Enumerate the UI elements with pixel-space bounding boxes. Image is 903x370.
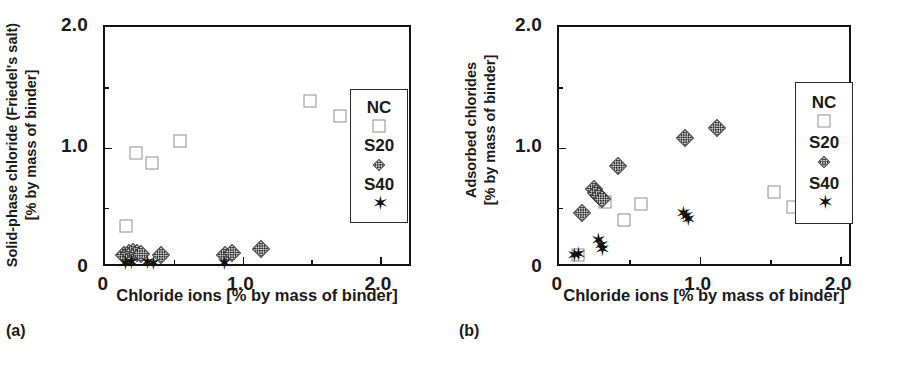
x-tick-major: [380, 257, 382, 264]
legend-label-s20: S20: [364, 137, 394, 155]
legend-entry-nc: NC: [367, 99, 392, 135]
data-point-nc: [129, 146, 142, 159]
y-tick-major: [559, 148, 566, 150]
y-tick-label-2: 2.0: [0, 14, 96, 36]
gray-diamond-icon: [373, 159, 386, 172]
y-axis-title-b: Adsorbed chlorides [% by mass of binder]: [462, 55, 499, 206]
legend-entry-nc: NC: [812, 94, 837, 130]
data-point-s40: [123, 254, 138, 269]
y-tick-minor: [559, 208, 563, 210]
data-point-nc: [303, 95, 316, 108]
x-axis-title-b: Chloride ions [% by mass of binder]: [557, 286, 851, 305]
open-square-icon: [818, 115, 831, 128]
data-point-nc: [617, 214, 630, 227]
y-tick-major: [105, 148, 112, 150]
y-tick-label-1: 1.0: [451, 135, 550, 157]
black-star-icon: [372, 196, 387, 211]
data-point-s20: [676, 129, 694, 147]
data-point-s40: [216, 256, 231, 271]
data-point-s40: [594, 241, 609, 256]
data-point-nc: [334, 109, 347, 122]
x-tick-minor: [629, 260, 631, 264]
y-tick-label-0: 0: [451, 255, 550, 277]
x-tick-minor: [770, 260, 772, 264]
y-tick-minor: [105, 208, 109, 210]
plot-frame-b: NC S20 S40: [557, 25, 851, 266]
legend-label-s40: S40: [809, 175, 839, 193]
legend-swatch-s20: [816, 154, 832, 170]
data-point-s40: [145, 255, 160, 270]
legend-entry-s20: S20: [364, 137, 394, 173]
data-point-nc: [635, 198, 648, 211]
x-tick-major: [700, 257, 702, 264]
black-star-icon: [817, 195, 832, 210]
legend-entry-s20: S20: [809, 134, 839, 170]
data-point-s20: [252, 240, 270, 258]
data-point-nc: [768, 186, 781, 199]
legend-swatch-nc: [816, 113, 832, 129]
gray-diamond-icon: [818, 156, 831, 169]
y-tick-label-2: 2.0: [451, 14, 550, 36]
y-tick-label-1: 1.0: [0, 135, 96, 157]
plot-frame-a: NC S20 S40: [103, 25, 411, 266]
data-point-nc: [146, 156, 159, 169]
x-tick-major: [840, 257, 842, 264]
data-point-s40: [680, 211, 695, 226]
legend-swatch-s40: [371, 195, 387, 211]
data-point-s20: [573, 204, 591, 222]
y-tick-label-0: 0: [0, 255, 96, 277]
legend-label-s20: S20: [809, 134, 839, 152]
legend-b: NC S20 S40: [795, 82, 853, 224]
y-tick-minor: [105, 87, 109, 89]
legend-label-nc: NC: [367, 99, 392, 117]
legend-entry-s40: S40: [364, 176, 394, 212]
legend-a: NC S20 S40: [350, 89, 408, 223]
panel-caption-b: (b): [459, 322, 479, 340]
panel-b: Adsorbed chlorides [% by mass of binder]…: [451, 0, 903, 370]
legend-swatch-s20: [371, 157, 387, 173]
y-tick-minor: [559, 87, 563, 89]
panel-a: Solid-phase chloride (Friedel's salt) [%…: [0, 0, 451, 370]
data-point-nc: [173, 134, 186, 147]
data-point-nc: [120, 220, 133, 233]
x-tick-major: [243, 257, 245, 264]
figure-container: Solid-phase chloride (Friedel's salt) [%…: [0, 0, 903, 370]
x-tick-minor: [311, 260, 313, 264]
legend-swatch-nc: [371, 118, 387, 134]
data-point-s40: [570, 247, 585, 262]
legend-label-nc: NC: [812, 94, 837, 112]
legend-entry-s40: S40: [809, 175, 839, 211]
open-square-icon: [373, 120, 386, 133]
x-axis-title-a: Chloride ions [% by mass of binder]: [103, 286, 411, 305]
panel-caption-a: (a): [6, 322, 26, 340]
legend-label-s40: S40: [364, 176, 394, 194]
x-tick-minor: [174, 260, 176, 264]
data-point-s20: [609, 157, 627, 175]
data-point-s20: [708, 118, 726, 136]
legend-swatch-s40: [816, 194, 832, 210]
